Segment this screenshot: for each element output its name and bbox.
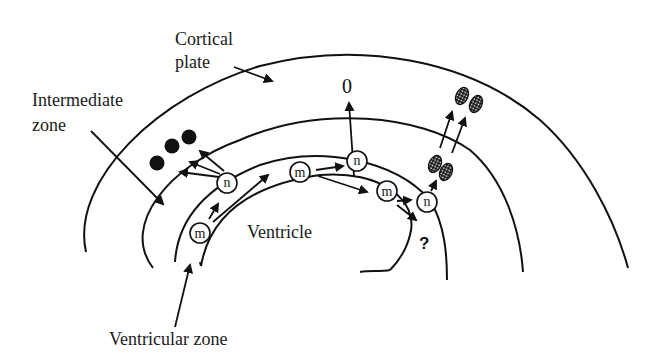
- cell-m-top: m: [290, 162, 310, 182]
- cell-m-right: m: [377, 181, 397, 201]
- hatched-cell-oval: [467, 93, 485, 114]
- migration-arrow: [452, 118, 465, 153]
- filled-cell-dot: [182, 130, 197, 145]
- cell-n-right: n: [417, 192, 437, 212]
- hatched-cell-oval: [453, 85, 471, 106]
- unknown-fate-marker: ?: [419, 234, 429, 253]
- division-arrow: [318, 176, 367, 192]
- ventricle-boundary-tail: [360, 270, 390, 272]
- cell-n-left: n: [217, 173, 237, 193]
- ventricular-zone-outer-boundary: [175, 156, 447, 280]
- intermediate-zone-label-line2: zone: [32, 115, 66, 135]
- filled-cell-dot: [165, 139, 180, 154]
- svg-text:n: n: [224, 175, 231, 190]
- migration-arrow: [440, 112, 452, 148]
- filled-cell-dot: [150, 156, 165, 171]
- svg-text:m: m: [382, 184, 393, 199]
- cortical-development-diagram: Cortical plate Intermediate zone Ventric…: [0, 0, 661, 364]
- svg-text:m: m: [295, 165, 306, 180]
- division-arrow: [431, 181, 436, 191]
- cortical-intermediate-boundary: [143, 118, 523, 272]
- migration-arrow: [180, 172, 219, 177]
- cell-m-bottom-left: m: [190, 223, 210, 243]
- ventricular-zone-pointer: [175, 265, 190, 327]
- zero-cell-marker: 0: [342, 75, 352, 97]
- ventricle-label: Ventricle: [247, 222, 312, 242]
- cell-n-top: n: [347, 151, 367, 171]
- division-arrow: [209, 204, 218, 219]
- ventricular-zone-label: Ventricular zone: [109, 329, 227, 349]
- intermediate-zone-label: Intermediate: [32, 90, 123, 110]
- cortical-plate-label: Cortical: [175, 29, 233, 49]
- cortical-plate-label-line2: plate: [175, 52, 210, 72]
- division-arrow: [397, 200, 411, 201]
- svg-text:n: n: [354, 153, 361, 168]
- division-arrow: [316, 166, 343, 170]
- svg-text:m: m: [195, 226, 206, 241]
- svg-text:n: n: [424, 194, 431, 209]
